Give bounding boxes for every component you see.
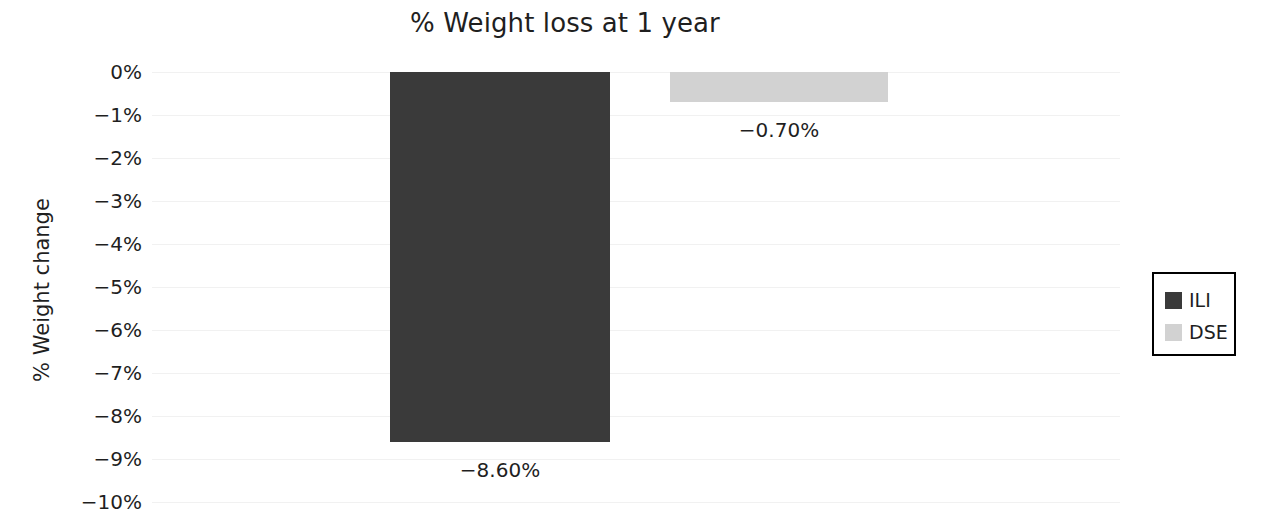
y-axis-tick-label: −5% (42, 275, 142, 299)
legend-swatch-icon (1165, 324, 1182, 341)
legend-label: DSE (1189, 321, 1228, 343)
y-axis-tick-label: −4% (42, 232, 142, 256)
y-axis-tick-label: 0% (42, 60, 142, 84)
chart-title: % Weight loss at 1 year (0, 8, 1130, 38)
bar-value-label-ili: −8.60% (460, 458, 540, 482)
plot-area: −8.60%−0.70% (152, 72, 1120, 502)
y-axis-tick-label: −8% (42, 404, 142, 428)
gridline (152, 330, 1120, 331)
gridline (152, 373, 1120, 374)
gridline (152, 416, 1120, 417)
gridline (152, 459, 1120, 460)
legend-swatch-icon (1165, 292, 1182, 309)
legend-entry-ili[interactable]: ILI (1165, 285, 1234, 315)
y-axis-tick-label: −7% (42, 361, 142, 385)
gridline (152, 72, 1120, 73)
legend-label: ILI (1189, 289, 1211, 311)
gridline (152, 502, 1120, 503)
bar-ili[interactable] (390, 72, 610, 442)
y-axis-tick-label: −2% (42, 146, 142, 170)
legend-entry-dse[interactable]: DSE (1165, 317, 1234, 347)
y-axis-tick-label: −1% (42, 103, 142, 127)
y-axis-tick-labels: 0%−1%−2%−3%−4%−5%−6%−7%−8%−9%−10% (32, 72, 142, 502)
bar-value-label-dse: −0.70% (739, 118, 819, 142)
y-axis-tick-label: −6% (42, 318, 142, 342)
bar-dse[interactable] (670, 72, 888, 102)
chart-legend: ILIDSE (1152, 272, 1236, 356)
gridline (152, 115, 1120, 116)
gridline (152, 201, 1120, 202)
y-axis-tick-label: −9% (42, 447, 142, 471)
gridline (152, 244, 1120, 245)
y-axis-tick-label: −10% (42, 490, 142, 514)
gridline (152, 158, 1120, 159)
y-axis-tick-label: −3% (42, 189, 142, 213)
gridline (152, 287, 1120, 288)
chart-figure: % Weight loss at 1 year % Weight change … (0, 0, 1285, 515)
